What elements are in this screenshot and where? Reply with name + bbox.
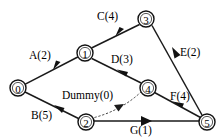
node-0-label: 0 <box>15 83 21 95</box>
edge-label-f: F(4) <box>170 91 190 103</box>
edge-c-line <box>92 25 140 49</box>
edge-label-d: D(3) <box>111 54 133 66</box>
node-3[interactable]: 3 <box>138 11 154 27</box>
node-1[interactable]: 1 <box>77 45 93 61</box>
edge-dummy-arrowhead <box>114 104 124 112</box>
node-2[interactable]: 2 <box>78 114 94 130</box>
edge-label-b: B(5) <box>31 110 52 122</box>
edge-label-g: G(1) <box>130 125 152 137</box>
node-3-label: 3 <box>143 14 149 26</box>
edge-label-c: C(4) <box>97 11 118 23</box>
node-5-label: 5 <box>204 117 210 129</box>
node-4[interactable]: 4 <box>140 80 156 96</box>
node-4-label: 4 <box>145 83 151 95</box>
edge-label-a: A(2) <box>29 50 51 62</box>
node-1-label: 1 <box>82 48 88 60</box>
edge-label-e: E(2) <box>180 47 200 59</box>
edge-b-arrowhead <box>54 105 65 113</box>
node-5[interactable]: 5 <box>199 114 215 130</box>
edge-d-arrowhead <box>117 70 128 77</box>
node-0[interactable]: 0 <box>10 80 26 96</box>
edge-label-dummy: Dummy(0) <box>62 90 113 102</box>
diagram-canvas: 0 1 2 3 4 <box>0 0 223 138</box>
edge-c-1-to-3 <box>92 25 140 49</box>
node-2-label: 2 <box>83 117 89 129</box>
